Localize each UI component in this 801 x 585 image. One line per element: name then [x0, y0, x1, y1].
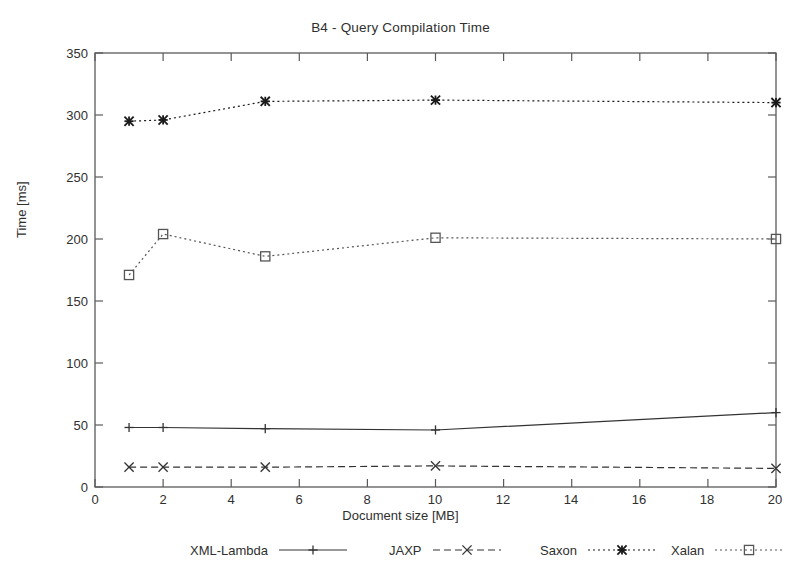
legend-item-saxon: Saxon [540, 538, 658, 562]
legend-label: Saxon [540, 543, 577, 558]
legend-item-xalan: Xalan [671, 538, 785, 562]
legend-label: JAXP [389, 543, 422, 558]
series-xalan [124, 229, 780, 279]
chart-legend: XML-Lambda JAXP Saxon Xalan [0, 538, 801, 568]
legend-item-xml-lambda: XML-Lambda [190, 538, 349, 562]
series-saxon [124, 96, 780, 126]
legend-swatch-line-plus-icon [277, 542, 349, 558]
legend-item-jaxp: JAXP [389, 538, 503, 562]
legend-label: Xalan [671, 543, 704, 558]
legend-label: XML-Lambda [190, 543, 268, 558]
legend-swatch-dotted-square-icon [713, 542, 785, 558]
series-jaxp [124, 461, 780, 473]
legend-swatch-dashed-cross-icon [431, 542, 503, 558]
series-xml-lambda [124, 408, 780, 435]
data-series-group [124, 96, 780, 473]
chart-plot [0, 0, 801, 585]
chart-container: B4 - Query Compilation Time Time [ms] Do… [0, 0, 801, 585]
axes-frame [95, 53, 776, 487]
axis-ticks [95, 53, 776, 487]
legend-swatch-dotted-asterisk-icon [586, 542, 658, 558]
